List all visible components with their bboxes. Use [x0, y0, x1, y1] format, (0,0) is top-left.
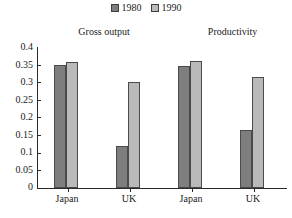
y-tick-label-0.25: 0.25 [16, 95, 34, 105]
y-tick-label-0.15: 0.15 [16, 130, 34, 140]
y-tick-label-0: 0 [28, 182, 33, 192]
y-axis: 0.4 0.35 0.3 0.25 0.2 0.15 0.1 0.05 0 [0, 41, 33, 195]
group-title-gross-output: Gross output [78, 26, 129, 38]
legend-item-1980: 1980 [111, 3, 142, 13]
bar-productivity-uk-1990 [252, 77, 264, 188]
x-tick-label-uk-gross-output: UK [122, 192, 136, 206]
legend-swatch-1980-icon [111, 4, 119, 12]
legend-label-1990: 1990 [162, 3, 182, 13]
bar-gross-output-japan-1980 [54, 65, 66, 188]
y-tick-label-0.2: 0.2 [21, 112, 34, 122]
y-tick-label-0.35: 0.35 [16, 60, 34, 70]
bar-gross-output-uk-1980 [116, 146, 128, 188]
x-tick-label-japan-productivity: Japan [180, 192, 203, 206]
bars-layer [38, 47, 286, 188]
group-title-row: Gross output Productivity [36, 26, 288, 40]
x-tick-label-uk-productivity: UK [246, 192, 260, 206]
bar-productivity-japan-1980 [178, 66, 190, 188]
group-title-productivity: Productivity [208, 26, 257, 38]
bar-productivity-japan-1990 [190, 61, 202, 188]
legend-label-1980: 1980 [122, 3, 142, 13]
bar-productivity-uk-1980 [240, 130, 252, 188]
x-tick-label-japan-gross-output: Japan [56, 192, 79, 206]
chart-legend: 1980 1990 [0, 3, 292, 13]
legend-swatch-1990-icon [151, 4, 159, 12]
x-axis: Japan UK Japan UK [37, 192, 286, 210]
y-tick-label-0.3: 0.3 [21, 77, 34, 87]
y-tick-label-0.1: 0.1 [21, 147, 34, 157]
bar-gross-output-japan-1990 [66, 62, 78, 188]
y-tick-label-0.4: 0.4 [21, 42, 34, 52]
y-tick-label-0.05: 0.05 [16, 165, 34, 175]
legend-item-1990: 1990 [151, 3, 182, 13]
bar-chart: 1980 1990 Gross output Productivity 0.4 … [0, 0, 292, 218]
bar-gross-output-uk-1990 [128, 82, 140, 188]
